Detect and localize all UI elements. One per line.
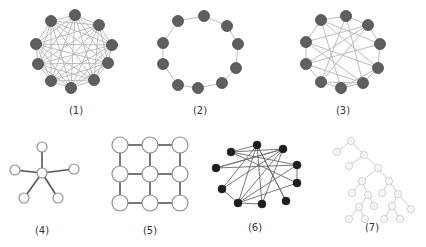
- caption-panel-7: (7): [365, 222, 379, 233]
- graph-panel-3: [301, 11, 386, 94]
- node: [234, 199, 242, 207]
- graph-panel-6: [212, 141, 301, 208]
- node-dot: [410, 208, 411, 209]
- node: [46, 76, 57, 87]
- node: [173, 80, 184, 91]
- node: [94, 20, 105, 31]
- node: [301, 59, 312, 70]
- node-dot: [351, 192, 352, 193]
- node: [253, 141, 261, 149]
- node: [107, 40, 118, 51]
- node: [66, 83, 77, 94]
- node: [336, 83, 347, 94]
- node: [112, 166, 128, 182]
- edge: [216, 165, 297, 168]
- node: [31, 39, 42, 50]
- node: [103, 58, 114, 69]
- edge: [38, 63, 108, 64]
- node: [316, 77, 327, 88]
- node: [69, 164, 79, 174]
- node-dot: [363, 154, 364, 155]
- node-dot: [350, 140, 351, 141]
- node: [293, 161, 301, 169]
- node-dot: [364, 218, 365, 219]
- nodes-4: [10, 142, 79, 203]
- edge: [216, 149, 283, 168]
- node: [217, 78, 228, 89]
- node-dot: [381, 192, 382, 193]
- node-dot: [367, 194, 368, 195]
- node-dot: [336, 151, 337, 152]
- node: [222, 21, 233, 32]
- node-dot: [391, 205, 392, 206]
- edge: [75, 15, 112, 45]
- node: [363, 20, 374, 31]
- node: [158, 59, 169, 70]
- node: [142, 137, 158, 153]
- node: [112, 137, 128, 153]
- node: [375, 39, 386, 50]
- node: [19, 193, 29, 203]
- node: [158, 38, 169, 49]
- edge: [36, 44, 112, 45]
- edge: [238, 165, 297, 203]
- node: [218, 185, 226, 193]
- node: [37, 142, 47, 152]
- node: [279, 145, 287, 153]
- node: [212, 164, 220, 172]
- graph-panel-1: [31, 10, 118, 94]
- caption-panel-1: (1): [69, 105, 83, 116]
- caption-panel-4: (4): [35, 225, 49, 236]
- edge: [306, 42, 378, 68]
- graph-panel-4: [10, 142, 79, 203]
- node: [293, 179, 301, 187]
- node: [358, 78, 369, 89]
- node: [33, 59, 44, 70]
- caption-panel-3: (3): [336, 105, 350, 116]
- node: [173, 16, 184, 27]
- node-dot: [358, 206, 359, 207]
- node: [282, 197, 290, 205]
- node-dot: [373, 205, 374, 206]
- node-dot: [361, 180, 362, 181]
- network-topologies-figure: [0, 0, 426, 247]
- node: [316, 15, 327, 26]
- caption-panel-2: (2): [193, 105, 207, 116]
- nodes-6: [212, 141, 301, 208]
- node: [53, 193, 63, 203]
- edge: [306, 25, 368, 64]
- nodes-5: [112, 137, 188, 211]
- caption-panel-6: (6): [248, 222, 262, 233]
- node: [10, 165, 20, 175]
- nodes-7: [334, 138, 415, 223]
- node: [142, 166, 158, 182]
- graph-panel-5: [112, 137, 188, 211]
- node: [46, 16, 57, 27]
- node: [341, 11, 352, 22]
- node: [112, 195, 128, 211]
- node: [37, 168, 47, 178]
- nodes-2: [158, 11, 244, 94]
- graph-panel-7: [334, 138, 415, 223]
- node: [89, 75, 100, 86]
- node: [301, 37, 312, 48]
- edge: [306, 44, 380, 64]
- node-dot: [348, 218, 349, 219]
- node-dot: [399, 218, 400, 219]
- node: [373, 63, 384, 74]
- node: [258, 200, 266, 208]
- node-dot: [348, 165, 349, 166]
- edge: [51, 80, 94, 81]
- caption-panel-5: (5): [143, 225, 157, 236]
- node: [227, 148, 235, 156]
- node: [172, 137, 188, 153]
- node-dot: [397, 193, 398, 194]
- node: [142, 195, 158, 211]
- node-dot: [388, 180, 389, 181]
- node: [70, 10, 81, 21]
- graph-panel-2: [158, 11, 244, 94]
- node: [172, 195, 188, 211]
- node-dot: [383, 218, 384, 219]
- node: [172, 166, 188, 182]
- node: [193, 83, 204, 94]
